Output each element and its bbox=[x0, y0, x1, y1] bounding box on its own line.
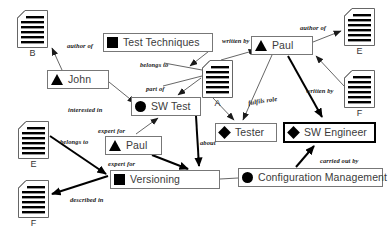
edge-caption-described-in: described in bbox=[70, 196, 104, 203]
document-b[interactable]: B bbox=[17, 10, 48, 48]
node-configuration-management[interactable]: Configuration Management bbox=[238, 168, 383, 187]
document-icon bbox=[18, 121, 49, 159]
document-icon bbox=[344, 70, 375, 108]
node-label: Versioning bbox=[130, 174, 180, 185]
edge-a-left-link-1 bbox=[164, 63, 202, 70]
diagram-canvas: B A bbox=[0, 0, 391, 234]
document-label: F bbox=[344, 108, 375, 118]
edge-cm-carried-out-by-swe bbox=[296, 146, 314, 167]
edge-caption-carried-out-by: carried out by bbox=[320, 157, 359, 164]
document-f-right[interactable]: F bbox=[344, 70, 375, 108]
node-label: Tester bbox=[235, 127, 264, 138]
edge-paul-author-of-e bbox=[313, 31, 341, 42]
square-icon bbox=[107, 37, 118, 48]
diamond-icon bbox=[218, 126, 231, 139]
edge-caption-author-of-2: author of bbox=[300, 24, 326, 31]
triangle-icon bbox=[51, 74, 63, 85]
square-icon bbox=[114, 174, 125, 185]
document-icon bbox=[202, 60, 233, 98]
document-a[interactable]: A bbox=[202, 60, 233, 98]
edge-caption-about: about bbox=[200, 139, 216, 146]
node-sw-engineer[interactable]: SW Engineer bbox=[283, 122, 376, 143]
document-e-right[interactable]: E bbox=[344, 8, 375, 46]
edge-caption-fulfils-role: fulfils role bbox=[248, 95, 278, 106]
document-label: B bbox=[17, 48, 48, 58]
node-label: SW Test bbox=[151, 101, 191, 112]
edge-versioning-cm-link bbox=[220, 178, 238, 179]
node-label: John bbox=[68, 74, 91, 85]
edge-john-author-of-b bbox=[52, 48, 62, 70]
document-label: F bbox=[18, 218, 49, 228]
triangle-icon bbox=[109, 140, 121, 151]
edge-caption-written-by-1: written by bbox=[222, 37, 250, 44]
node-label: Paul bbox=[272, 40, 293, 51]
node-paul-left[interactable]: Paul bbox=[105, 136, 162, 155]
node-label: Configuration Management bbox=[258, 172, 387, 183]
edge-caption-author-of-1: author of bbox=[67, 42, 93, 49]
node-label: Test Techniques bbox=[123, 37, 200, 48]
edge-caption-belongs-to-1: belongs to bbox=[140, 61, 168, 68]
edge-versioning-described-in-f bbox=[52, 176, 108, 194]
document-f-left[interactable]: F bbox=[18, 180, 49, 218]
edge-swtest-about-versioning bbox=[196, 116, 199, 166]
document-label: E bbox=[18, 159, 49, 169]
document-e-left[interactable]: E bbox=[18, 121, 49, 159]
diamond-icon bbox=[287, 126, 300, 139]
edge-paul-expert-for-swtest bbox=[136, 118, 158, 134]
node-label: SW Engineer bbox=[304, 127, 367, 138]
edge-f-written-by-paul bbox=[316, 56, 344, 86]
node-sw-test[interactable]: SW Test bbox=[131, 97, 201, 116]
edge-a-left-link-2 bbox=[163, 76, 202, 86]
triangle-icon bbox=[255, 40, 267, 51]
edge-paul-fulfils-role-tester bbox=[243, 55, 272, 120]
edge-caption-interested-in: interested in bbox=[68, 106, 102, 113]
edge-caption-part-of: part of bbox=[146, 85, 165, 92]
document-icon bbox=[344, 8, 375, 46]
document-label: E bbox=[344, 46, 375, 56]
node-tester[interactable]: Tester bbox=[215, 123, 277, 142]
circle-icon bbox=[135, 101, 146, 112]
circle-icon bbox=[242, 172, 253, 183]
edge-caption-belongs-to-2: belongs to bbox=[60, 138, 88, 145]
edge-paul-expert-for-versioning bbox=[152, 155, 188, 169]
node-test-techniques[interactable]: Test Techniques bbox=[103, 33, 213, 52]
node-versioning[interactable]: Versioning bbox=[110, 170, 220, 189]
node-john[interactable]: John bbox=[47, 70, 109, 89]
document-icon bbox=[17, 10, 48, 48]
node-label: Paul bbox=[126, 140, 147, 151]
document-label: A bbox=[202, 98, 233, 108]
edge-caption-expert-for-2: expert for bbox=[108, 160, 135, 167]
edge-a-part-of-swtest bbox=[178, 78, 201, 95]
edge-caption-written-by-2: written by bbox=[306, 87, 334, 94]
edge-caption-expert-for-1: expert for bbox=[98, 127, 125, 134]
node-paul-right[interactable]: Paul bbox=[251, 36, 313, 55]
document-icon bbox=[18, 180, 49, 218]
